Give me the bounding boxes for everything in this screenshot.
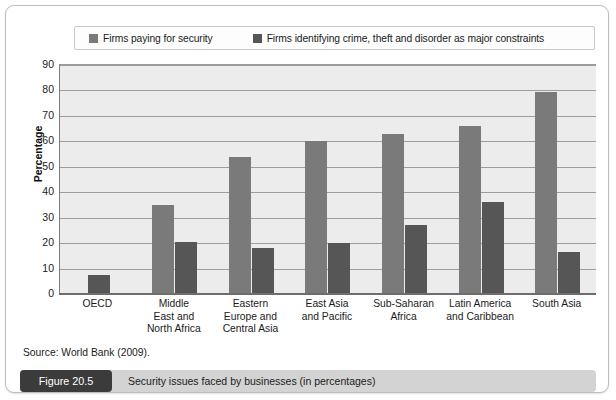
legend-item-firms-identifying-crime: Firms identifying crime, theft and disor…	[253, 33, 544, 44]
figure-caption-text: Security issues faced by businesses (in …	[128, 375, 375, 387]
bar-group	[366, 65, 443, 294]
bar-series-1	[328, 243, 350, 294]
bar-series-1	[88, 275, 110, 294]
y-tick-label-60: 60	[28, 134, 54, 146]
bar-group	[290, 65, 367, 294]
bar-series-0	[229, 157, 251, 294]
bar-group	[137, 65, 214, 294]
bar-series-1	[558, 252, 580, 294]
legend-label-series-0: Firms paying for security	[103, 33, 213, 44]
chart-legend: Firms paying for security Firms identify…	[74, 26, 595, 50]
bar-group	[519, 65, 596, 294]
legend-swatch-series-0	[89, 34, 98, 43]
legend-label-series-1: Firms identifying crime, theft and disor…	[267, 33, 544, 44]
legend-item-firms-paying-for-security: Firms paying for security	[89, 33, 213, 44]
x-tick-label-line: Central Asia	[204, 323, 297, 336]
bar-series-0	[152, 205, 174, 294]
figure-caption-bar: Figure 20.5 Security issues faced by bus…	[20, 370, 596, 392]
bar-series-1	[175, 242, 197, 294]
legend-swatch-series-1	[253, 34, 262, 43]
bar-series-0	[305, 141, 327, 294]
y-axis-ticks: 0102030405060708090	[20, 6, 54, 400]
figure-card: Firms paying for security Firms identify…	[5, 5, 609, 393]
source-note: Source: World Bank (2009).	[23, 347, 150, 358]
y-tick-label-80: 80	[28, 83, 54, 95]
x-tick-label-south-asia: South Asia	[510, 298, 603, 311]
y-tick-label-50: 50	[28, 160, 54, 172]
bar-series-1	[252, 248, 274, 294]
bar-series-0	[535, 92, 557, 294]
x-axis-line	[59, 293, 596, 295]
y-tick-label-40: 40	[28, 185, 54, 197]
bar-series-1	[405, 225, 427, 294]
bar-group	[213, 65, 290, 294]
bar-series-0	[459, 126, 481, 294]
bar-series-0	[382, 134, 404, 294]
y-tick-label-10: 10	[28, 262, 54, 274]
x-tick-label-line: South Asia	[510, 298, 603, 311]
plot-area	[59, 64, 596, 294]
y-tick-label-30: 30	[28, 211, 54, 223]
y-tick-label-90: 90	[28, 58, 54, 70]
bar-series-1	[482, 202, 504, 294]
bar-group	[443, 65, 520, 294]
x-tick-label-line: and Caribbean	[434, 311, 527, 324]
y-tick-label-20: 20	[28, 236, 54, 248]
y-tick-label-70: 70	[28, 109, 54, 121]
bar-group	[60, 65, 137, 294]
figure-number-badge: Figure 20.5	[20, 370, 112, 392]
